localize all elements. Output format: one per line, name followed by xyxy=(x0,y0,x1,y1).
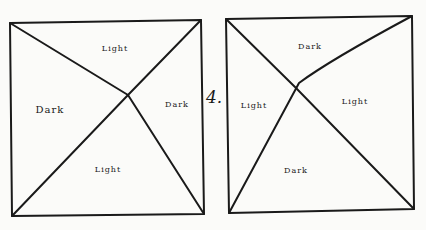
figure-number: 4. xyxy=(206,87,222,107)
right-region-top-label: Dark xyxy=(298,42,322,51)
left-region-top-label: Light xyxy=(102,44,128,53)
right-region-left-label: Light xyxy=(241,101,267,110)
left-region-bottom-label: Light xyxy=(95,165,121,174)
left-region-left-label: Dark xyxy=(36,104,65,115)
right-region-bottom-label: Dark xyxy=(284,166,308,175)
right-region-right-label: Light xyxy=(342,97,368,106)
diagram-canvas xyxy=(0,0,426,230)
left-region-right-label: Dark xyxy=(165,100,189,109)
